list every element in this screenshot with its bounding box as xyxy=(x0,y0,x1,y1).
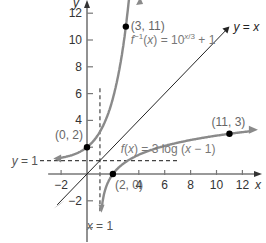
y-axis-label: y xyxy=(72,0,80,10)
point-marker xyxy=(226,131,232,137)
point-marker xyxy=(84,144,90,150)
function-label: f(x) = 3 log (x − 1) xyxy=(121,142,216,156)
y-axis-arrow-icon xyxy=(84,0,90,8)
x-axis-label: x xyxy=(254,178,262,192)
point-label: (2, 0) xyxy=(115,178,143,192)
identity-line-label: y = x xyxy=(232,20,260,34)
y-tick-label: 8 xyxy=(75,60,82,74)
horizontal-asymptote-label: y = 1 xyxy=(11,154,39,168)
point-label: (3, 11) xyxy=(131,19,165,33)
arrow-icon xyxy=(53,201,64,209)
x-tick-label: 8 xyxy=(187,178,194,192)
point-label: (0, 2) xyxy=(55,128,83,142)
y-tick-label: −2 xyxy=(68,194,82,208)
x-axis-arrow-icon xyxy=(254,171,262,177)
point-label: (11, 3) xyxy=(212,115,246,129)
labels: y = x(3, 11)(0, 2)(2, 0)(11, 3)f−1(x) = … xyxy=(55,19,260,192)
x-tick-label: 6 xyxy=(161,178,168,192)
arrow-icon xyxy=(136,0,143,5)
vertical-asymptote-label: x = 1 xyxy=(86,219,114,233)
y-tick-label: 10 xyxy=(69,33,83,47)
inverse-function-label: f−1(x) = 10x/3 + 1 xyxy=(131,32,216,47)
y-tick-label: 6 xyxy=(75,87,82,101)
asymptotes: y = 1x = 1 xyxy=(11,88,178,232)
arrow-icon xyxy=(53,155,61,163)
arrow-icon xyxy=(249,126,258,134)
plot-area: y = 1x = 1 −24681012x1210864−2y y = x(3,… xyxy=(0,0,266,243)
x-tick-label: 12 xyxy=(236,178,250,192)
chart: y = 1x = 1 −24681012x1210864−2y y = x(3,… xyxy=(0,0,266,243)
x-tick-label: 10 xyxy=(210,178,224,192)
x-tick-label: −2 xyxy=(54,178,68,192)
point-marker xyxy=(110,171,116,177)
point-marker xyxy=(123,23,129,29)
y-tick-label: 4 xyxy=(75,113,82,127)
